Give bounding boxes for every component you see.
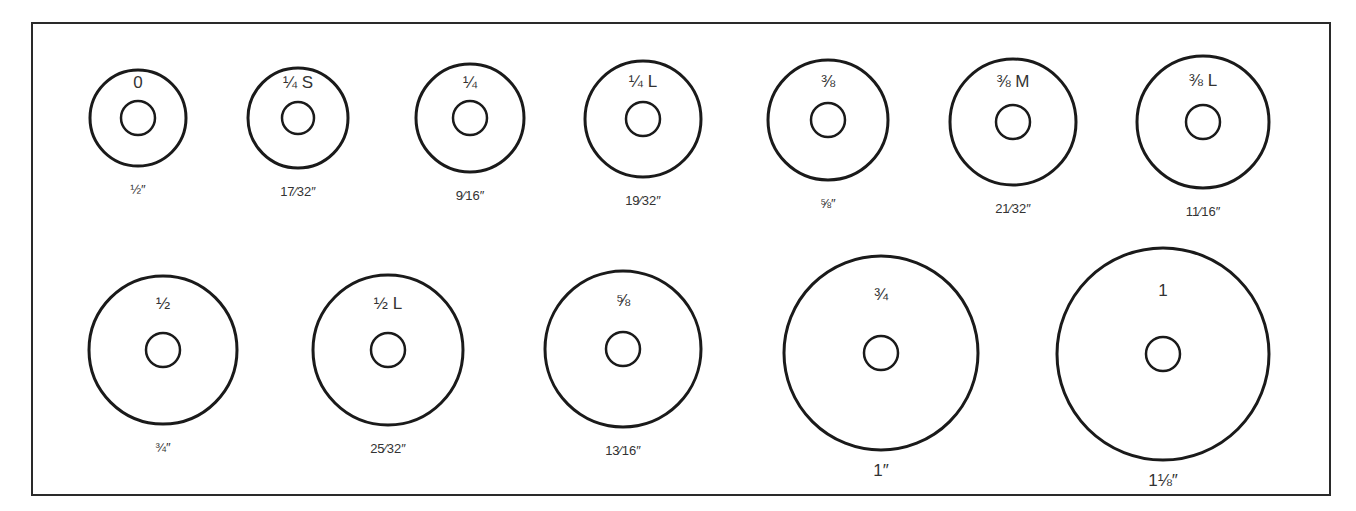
- washer-hole-circle: [453, 101, 487, 135]
- washer-size-label: ⅝: [616, 291, 631, 310]
- washer-diameter-label: 19⁄32″: [625, 193, 661, 208]
- washer-size-label: ⅜ M: [996, 72, 1029, 91]
- washer-size-label: ¼: [463, 73, 478, 92]
- washer-diameter-label: ½″: [130, 182, 146, 197]
- washer-size-label: ½ L: [374, 294, 402, 313]
- washer-hole-circle: [996, 105, 1030, 139]
- washer-hole-circle: [1146, 337, 1180, 371]
- washer-size-label: ⅜ L: [1189, 71, 1217, 90]
- washer-size-label: ¼ L: [629, 72, 657, 91]
- washer-2: ¼ S17⁄32″: [248, 68, 348, 199]
- washer-size-label: ⅜: [821, 72, 836, 91]
- washer-hole-circle: [371, 333, 405, 367]
- washer-5: ⅜⅝″: [768, 60, 888, 211]
- washer-hole-circle: [626, 102, 660, 136]
- washer-8: ½¾″: [89, 276, 237, 455]
- washer-diameter-label: 11⁄16″: [1186, 204, 1221, 219]
- washer-diagram: 0½″¼ S17⁄32″¼9⁄16″¼ L19⁄32″⅜⅝″⅜ M21⁄32″⅜…: [0, 0, 1356, 511]
- washer-diameter-label: 9⁄16″: [456, 188, 485, 203]
- washer-diameter-label: ¾″: [155, 440, 171, 455]
- washer-hole-circle: [864, 336, 898, 370]
- washer-7: ⅜ L11⁄16″: [1137, 56, 1269, 219]
- washer-3: ¼9⁄16″: [416, 64, 524, 203]
- washer-diameter-label: 1″: [873, 461, 888, 480]
- washer-diameter-label: 17⁄32″: [280, 184, 316, 199]
- washer-6: ⅜ M21⁄32″: [950, 59, 1076, 216]
- washer-hole-circle: [811, 103, 845, 137]
- washer-hole-circle: [606, 332, 640, 366]
- washer-hole-circle: [146, 333, 180, 367]
- washer-diameter-label: 1⅛″: [1148, 471, 1178, 490]
- washer-hole-circle: [121, 101, 155, 135]
- washer-size-label: ¼ S: [283, 73, 313, 92]
- washer-10: ⅝13⁄16″: [545, 271, 701, 458]
- washer-4: ¼ L19⁄32″: [585, 61, 701, 208]
- washer-12: 11⅛″: [1057, 248, 1269, 490]
- washer-diameter-label: ⅝″: [820, 196, 836, 211]
- washer-size-label: 0: [133, 73, 142, 92]
- washer-9: ½ L25⁄32″: [313, 275, 463, 456]
- washer-size-label: ¾: [874, 285, 889, 304]
- washer-diameter-label: 13⁄16″: [605, 443, 641, 458]
- washer-size-label: ½: [156, 294, 170, 313]
- washer-hole-circle: [1186, 105, 1220, 139]
- washer-diameter-label: 25⁄32″: [370, 441, 406, 456]
- washer-1: 0½″: [90, 70, 186, 197]
- washer-size-label: 1: [1158, 281, 1167, 300]
- washer-11: ¾1″: [784, 256, 978, 480]
- washer-diameter-label: 21⁄32″: [995, 201, 1031, 216]
- washer-hole-circle: [282, 102, 314, 134]
